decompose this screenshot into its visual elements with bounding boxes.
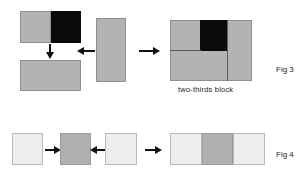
fig3-split-block-gray-half (20, 11, 51, 43)
fig3-solid-gray-block (20, 60, 81, 91)
fig3-assembly-horizontal-rule (170, 50, 201, 51)
fig3-down-arrow-icon (45, 44, 54, 59)
fig4-assembled-row-light-right (233, 133, 265, 165)
fig3-split-block-black-half (51, 11, 81, 43)
fig3-caption: two-thirds block (178, 85, 233, 94)
fig4-light-square-left (12, 133, 43, 165)
fig4-left-arrow-1-icon (90, 145, 106, 154)
fig4-assembled-row-light-left (170, 133, 202, 165)
fig3-assembled-black-square (200, 20, 227, 51)
fig4-right-arrow-1-icon (45, 145, 61, 154)
fig4-right-arrow-2-icon (145, 145, 162, 154)
fig4-mid-gray-square (60, 133, 91, 165)
figure-sheet: two-thirds block Fig 3 Fig 4 (0, 0, 306, 172)
fig3-assembly-vertical-rule (227, 20, 228, 81)
fig4-label: Fig 4 (276, 150, 294, 159)
fig3-vertical-gray-block (96, 18, 126, 82)
fig3-right-arrow-icon (139, 46, 160, 55)
fig3-label: Fig 3 (276, 65, 294, 74)
fig4-assembled-row-gray-center (202, 133, 233, 165)
fig4-light-square-right (105, 133, 137, 165)
fig3-left-arrow-icon (77, 46, 95, 55)
